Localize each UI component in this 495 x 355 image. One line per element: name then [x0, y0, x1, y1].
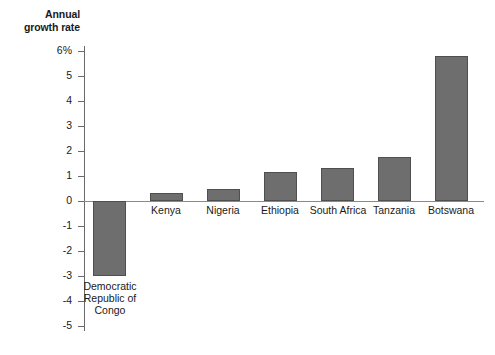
y-tick-label: -5: [28, 320, 72, 331]
y-tick-label: -2: [28, 245, 72, 256]
y-axis-title-line-1: Annual: [45, 8, 80, 20]
y-tick-label: -4: [28, 295, 72, 306]
y-tick-mark: [78, 76, 84, 77]
y-tick-label: 0: [28, 195, 72, 206]
y-tick-mark: [78, 276, 84, 277]
y-tick-mark: [78, 51, 84, 52]
y-tick-mark: [78, 126, 84, 127]
y-tick-mark: [78, 101, 84, 102]
bar-democratic-republic-of-congo: [93, 201, 126, 276]
y-tick-label: 5: [28, 70, 72, 81]
y-tick-label: -3: [28, 270, 72, 281]
bar-label-democratic-republic-of-congo: Democratic Republic of Congo: [76, 280, 144, 316]
y-tick-label: 3: [28, 120, 72, 131]
y-tick-mark: [78, 326, 84, 327]
bar-tanzania: [378, 157, 411, 201]
bar-south-africa: [321, 168, 354, 201]
y-tick-mark: [78, 151, 84, 152]
y-tick-label: 4: [28, 95, 72, 106]
bar-botswana: [435, 56, 468, 201]
bar-label-botswana: Botswana: [417, 204, 485, 216]
bar-ethiopia: [264, 172, 297, 201]
y-tick-label: 1: [28, 170, 72, 181]
y-axis-title-line-2: growth rate: [24, 21, 80, 33]
y-axis-title: Annualgrowth rate: [0, 8, 80, 33]
y-tick-label: 2: [28, 145, 72, 156]
zero-baseline: [84, 201, 484, 202]
y-tick-label: -1: [28, 220, 72, 231]
y-tick-mark: [78, 251, 84, 252]
bar-chart: Annualgrowth rate 6%543210-1-2-3-4-5 Dem…: [0, 0, 495, 355]
y-tick-mark: [78, 201, 84, 202]
y-tick-label: 6%: [28, 45, 72, 56]
bar-nigeria: [207, 189, 240, 201]
y-tick-mark: [78, 226, 84, 227]
bar-kenya: [150, 193, 183, 201]
y-tick-mark: [78, 176, 84, 177]
